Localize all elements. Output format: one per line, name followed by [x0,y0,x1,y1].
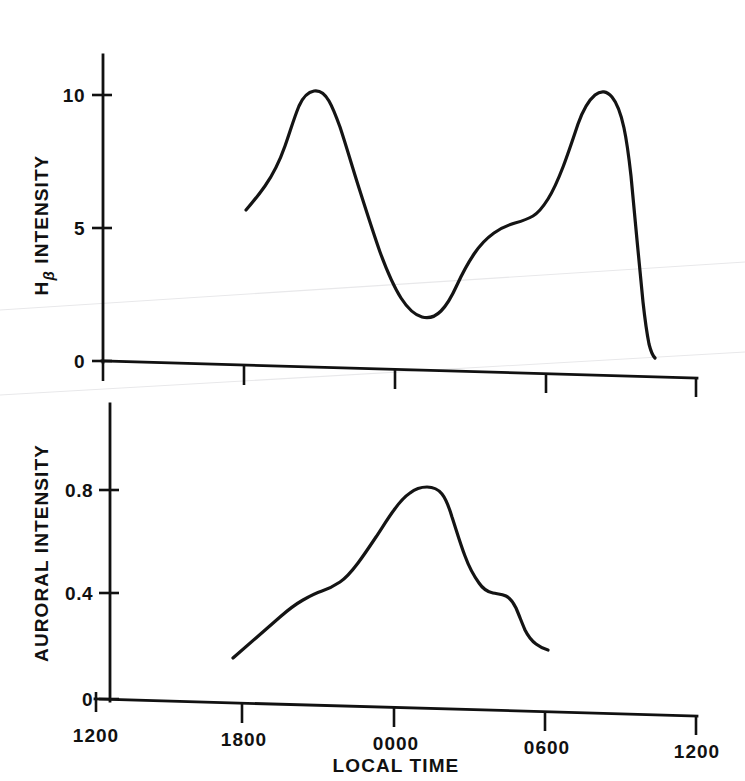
clipped-header-text [470,0,745,5]
top-ylabel-subscript: β [40,270,57,281]
top-panel-y-axis-title: Hβ INTENSITY [31,155,57,296]
top-panel-x-axis [102,361,697,378]
svg-text:Hβ INTENSITY: Hβ INTENSITY [31,155,57,296]
top-ytick-label-5: 5 [74,218,85,239]
x-axis-title: LOCAL TIME [333,755,460,776]
bottom-ylabel: AURORAL INTENSITY [31,444,52,662]
xtick-label-0000: 0000 [373,733,419,754]
xtick-label-0600: 0600 [524,737,570,758]
top-ytick-label-10: 10 [63,85,85,106]
bottom-ytick-label-04: 0.4 [65,583,93,604]
xtick-label-1200-left: 1200 [73,725,119,746]
top-ylabel-rest: INTENSITY [31,155,52,271]
bottom-panel-y-axis-title: AURORAL INTENSITY [31,444,52,662]
scan-artifact [0,352,745,395]
scan-artifact [0,262,745,310]
bottom-panel-x-axis [95,699,697,716]
x-axis-labels: 1200 1800 0000 0600 1200 LOCAL TIME [73,725,720,776]
bottom-ytick-label-08: 0.8 [65,480,93,501]
top-ytick-label-0: 0 [74,351,85,372]
xtick-label-1800: 1800 [221,729,267,750]
bottom-ytick-label-0: 0 [82,689,93,710]
top-panel: 10 5 0 Hβ INTENSITY [31,55,697,397]
hbeta-intensity-curve [246,91,655,358]
chart-svg: 10 5 0 Hβ INTENSITY [0,0,745,781]
top-ylabel-main: H [31,281,52,296]
xtick-label-1200-right: 1200 [674,741,720,762]
bottom-panel: 0.8 0.4 0 AURORAL INTENSITY [31,404,697,735]
auroral-intensity-curve [233,487,548,658]
figure-container: 10 5 0 Hβ INTENSITY [0,0,745,781]
